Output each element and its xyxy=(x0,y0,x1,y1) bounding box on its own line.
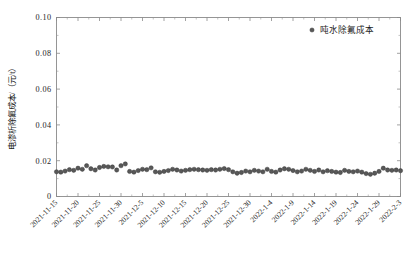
data-point xyxy=(102,164,106,168)
data-point xyxy=(244,169,248,173)
data-point xyxy=(218,167,222,171)
data-point xyxy=(291,168,295,172)
data-point xyxy=(106,165,110,169)
data-point xyxy=(269,169,273,173)
data-point-series xyxy=(54,162,402,177)
data-point xyxy=(398,169,402,173)
data-point xyxy=(381,166,385,170)
data-point xyxy=(342,168,346,172)
data-point xyxy=(123,162,127,166)
data-point xyxy=(355,169,359,173)
data-point xyxy=(158,170,162,174)
data-point xyxy=(205,168,209,172)
data-point xyxy=(274,170,278,174)
data-point xyxy=(54,170,58,174)
data-point xyxy=(278,168,282,172)
chart-legend: 吨水除氟成本 xyxy=(310,24,374,35)
data-point xyxy=(377,169,381,173)
data-point xyxy=(338,170,342,174)
data-point xyxy=(325,169,329,173)
y-tick-label: 0.02 xyxy=(36,157,52,166)
data-point xyxy=(334,170,338,174)
data-point xyxy=(89,167,93,171)
data-point xyxy=(213,168,217,172)
data-point xyxy=(84,164,88,168)
data-point xyxy=(360,170,364,174)
y-axis-title: 电渗析除氟成本/（元/t） xyxy=(7,64,17,151)
legend-marker xyxy=(310,28,314,32)
data-point xyxy=(304,167,308,171)
data-point xyxy=(67,168,71,172)
data-point xyxy=(347,169,351,173)
data-point xyxy=(330,169,334,173)
data-point xyxy=(93,168,97,172)
data-point xyxy=(97,165,101,169)
data-point xyxy=(72,168,76,172)
y-axis-title-text: 电渗析除氟成本/（元/t） xyxy=(7,64,17,151)
data-point xyxy=(175,168,179,172)
data-point xyxy=(183,168,187,172)
data-point xyxy=(368,172,372,176)
data-point xyxy=(235,171,239,175)
legend-label: 吨水除氟成本 xyxy=(320,24,374,35)
data-point xyxy=(248,170,252,174)
data-point xyxy=(299,169,303,173)
data-point xyxy=(287,167,291,171)
data-point xyxy=(119,164,123,168)
y-tick-label: 0.08 xyxy=(36,49,52,58)
data-point xyxy=(351,170,355,174)
data-point xyxy=(136,168,140,172)
data-point xyxy=(162,169,166,173)
y-tick-label: 0.10 xyxy=(36,13,52,22)
data-point xyxy=(295,170,299,174)
y-axis-minor-ticks xyxy=(57,35,401,178)
data-point xyxy=(63,169,67,173)
data-point xyxy=(265,167,269,171)
data-point xyxy=(364,171,368,175)
data-point xyxy=(385,168,389,172)
data-point xyxy=(390,168,394,172)
data-point xyxy=(394,168,398,172)
data-point xyxy=(149,166,153,170)
data-point xyxy=(373,171,377,175)
data-point xyxy=(170,167,174,171)
data-point xyxy=(179,169,183,173)
x-axis-tick-labels: 2021-11-152021-11-202021-11-252021-11-30… xyxy=(28,198,403,230)
data-point xyxy=(145,168,149,172)
data-point xyxy=(308,168,312,172)
data-point xyxy=(76,166,80,170)
data-point xyxy=(140,167,144,171)
x-tick-label: 2022-2-3 xyxy=(377,198,403,224)
data-point xyxy=(231,170,235,174)
y-tick-label: 0.04 xyxy=(36,121,52,130)
data-point xyxy=(192,167,196,171)
data-point xyxy=(80,167,84,171)
data-point xyxy=(261,170,265,174)
chart-container: 00.020.040.060.080.10 2021-11-152021-11-… xyxy=(0,0,413,253)
y-tick-label: 0.06 xyxy=(36,85,52,94)
data-point xyxy=(321,170,325,174)
data-point xyxy=(226,168,230,172)
data-point xyxy=(312,169,316,173)
scatter-chart: 00.020.040.060.080.10 2021-11-152021-11-… xyxy=(0,0,413,253)
data-point xyxy=(59,170,63,174)
data-point xyxy=(209,168,213,172)
data-point xyxy=(127,169,131,173)
data-point xyxy=(166,168,170,172)
data-point xyxy=(115,168,119,172)
data-point xyxy=(132,170,136,174)
data-point xyxy=(188,168,192,172)
data-point xyxy=(110,165,114,169)
y-axis-tick-labels: 00.020.040.060.080.10 xyxy=(36,13,52,201)
data-point xyxy=(252,168,256,172)
x-tick-label: 2022-1-4 xyxy=(248,198,274,224)
data-point xyxy=(282,167,286,171)
data-point xyxy=(153,170,157,174)
data-point xyxy=(256,169,260,173)
data-point xyxy=(222,166,226,170)
data-point xyxy=(196,168,200,172)
data-point xyxy=(239,170,243,174)
data-point xyxy=(201,168,205,172)
data-point xyxy=(317,168,321,172)
